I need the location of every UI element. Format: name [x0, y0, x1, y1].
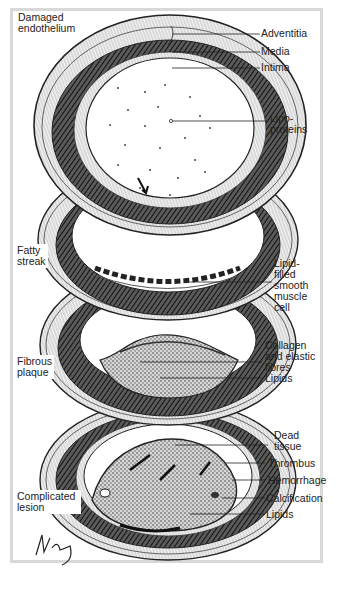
- label-adventitia: Adventitia: [261, 28, 307, 39]
- label-line: streak: [17, 256, 46, 267]
- label-lipid-filled-smooth-muscle-cell: Lipid- filled smooth muscle cell: [274, 258, 308, 313]
- label-fatty-streak: Fatty streak: [17, 244, 48, 268]
- label-line: cell: [274, 302, 308, 313]
- label-complicated-lesion: Complicated lesion: [17, 490, 81, 514]
- label-lipids-plaque: Lipids: [265, 373, 292, 384]
- label-dead-tissue: Dead tissue: [274, 430, 301, 452]
- artist-signature: [36, 535, 71, 565]
- label-damaged-endothelium: Damaged endothelium: [18, 12, 75, 34]
- label-line: plaque: [17, 367, 52, 378]
- label-intima: Intima: [261, 62, 290, 73]
- label-line: proteins: [270, 124, 307, 135]
- label-line: endothelium: [18, 23, 75, 34]
- label-hemorrhage: Hemorrhage: [268, 475, 326, 486]
- label-media: Media: [261, 46, 290, 57]
- label-lipids-lesion: Lipids: [266, 509, 293, 520]
- label-line: tissue: [274, 441, 301, 452]
- label-collagen-elastic-fibres: Collagen and elastic fibres: [265, 340, 315, 373]
- label-calcification: Calcification: [266, 493, 323, 504]
- label-thrombus: Thrombus: [268, 458, 315, 469]
- label-lipoproteins: Lipo- proteins: [270, 113, 307, 135]
- label-line: lesion: [17, 502, 75, 513]
- label-fibrous-plaque: Fibrous plaque: [17, 355, 54, 379]
